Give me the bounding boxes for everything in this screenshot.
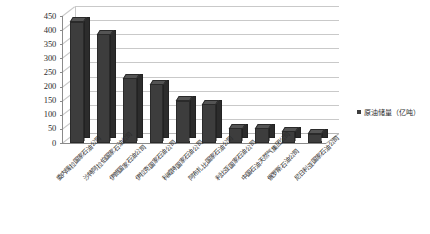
bar-side-face <box>216 100 222 139</box>
x-axis-tick-mark <box>163 138 164 141</box>
bar <box>70 22 84 143</box>
legend: 原油储量（亿吨） <box>357 107 420 117</box>
bar <box>202 104 216 143</box>
x-axis-tick-mark <box>295 138 296 141</box>
legend-swatch-icon <box>357 110 361 114</box>
bar <box>150 84 164 143</box>
x-axis-tick-mark <box>269 138 270 141</box>
bar-side-face <box>110 30 116 139</box>
bar-side-face <box>190 96 196 138</box>
bar-side-face <box>137 74 143 139</box>
legend-label: 原油储量（亿吨） <box>364 107 420 117</box>
bar <box>255 128 269 143</box>
bar <box>308 134 322 143</box>
x-axis-tick-mark <box>84 138 85 141</box>
bar-series <box>0 0 430 234</box>
x-axis-tick-mark <box>110 138 111 141</box>
bar <box>176 101 190 143</box>
chart-root: 450400350300250200150100500 委内瑞拉国家石油公司沙特… <box>0 0 430 234</box>
x-axis-tick-mark <box>216 138 217 141</box>
x-axis-tick-mark <box>242 138 243 141</box>
bar-side-face <box>163 80 169 139</box>
bar <box>97 34 111 143</box>
x-axis-tick-mark <box>321 138 322 141</box>
x-axis-tick-mark <box>137 138 138 141</box>
x-axis-tick-mark <box>189 138 190 141</box>
bar-side-face <box>84 17 90 138</box>
